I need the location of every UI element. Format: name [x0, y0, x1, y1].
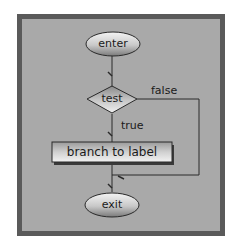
false-edge-label: false	[151, 84, 177, 97]
exit-label: exit	[85, 198, 139, 211]
test-label: test	[87, 92, 137, 105]
arrow-icon	[118, 176, 124, 179]
enter-label: enter	[86, 37, 140, 50]
true-edge-label: true	[121, 119, 144, 132]
branch-label: branch to label	[52, 145, 172, 159]
arrow-icon	[108, 72, 112, 76]
arrow-icon	[108, 132, 112, 136]
arrow-icon	[108, 184, 112, 188]
